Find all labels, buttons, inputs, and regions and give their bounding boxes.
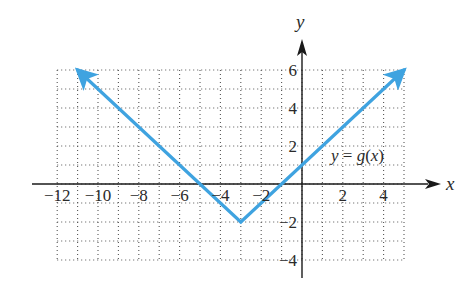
x-tick-label: 4 <box>379 186 388 205</box>
y-tick-label: 4 <box>289 99 298 118</box>
function-label: y = g(x) <box>329 146 402 166</box>
x-tick-label: −12 <box>44 186 71 205</box>
x-axis-label: x <box>445 173 455 194</box>
function-graph: −12−10−8−6−4−224642−2−4 y = g(x) x y <box>0 0 467 292</box>
x-tick-label: −4 <box>211 186 230 205</box>
y-tick-label: 6 <box>289 61 298 80</box>
y-tick-label: 2 <box>289 137 298 156</box>
x-tick-label: −2 <box>252 186 270 205</box>
x-tick-label: −6 <box>171 186 189 205</box>
function-label-text: y = g(x) <box>329 146 384 165</box>
x-tick-label: 2 <box>339 186 348 205</box>
x-tick-label: −8 <box>130 186 148 205</box>
y-tick-label: −2 <box>279 213 297 232</box>
x-tick-label: −10 <box>85 186 112 205</box>
y-axis-label: y <box>294 11 305 32</box>
y-tick-label: −4 <box>279 251 298 270</box>
